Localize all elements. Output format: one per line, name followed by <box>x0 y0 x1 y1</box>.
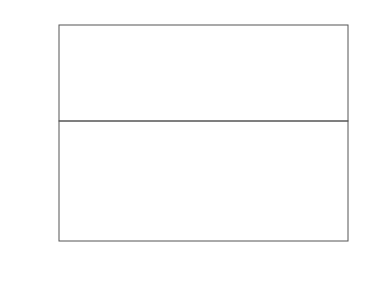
top-panel <box>59 25 348 121</box>
bottom-panel <box>59 121 348 241</box>
figure <box>0 0 371 287</box>
top-plot-frame <box>59 25 348 121</box>
bottom-plot-frame <box>59 121 348 241</box>
